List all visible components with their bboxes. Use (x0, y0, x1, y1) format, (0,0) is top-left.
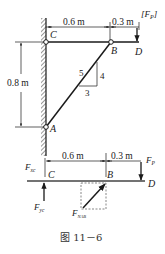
fbd-dim-bd-label: 0.3 m (111, 151, 133, 161)
fbd-fnab-label: FNAB (71, 208, 86, 219)
dim-bd-label: 0.3 m (112, 17, 134, 27)
slope-run: 3 (85, 88, 90, 98)
label-b: B (111, 45, 117, 56)
truss-diagram: C B D A 0.6 m 0.3 m [FP] 0.8 m 5 4 3 (0, 0, 165, 254)
dim-ca-label: 0.8 m (7, 78, 29, 88)
fbd-fxc-label: Fxc (24, 162, 36, 173)
pin-b (109, 40, 114, 45)
pin-c (44, 40, 49, 45)
fbd-label-d: D (147, 178, 156, 189)
structure-view: C B D A 0.6 m 0.3 m [FP] 0.8 m 5 4 3 (7, 9, 158, 156)
figure-caption: 图 11－6 (60, 232, 102, 243)
rod-ab (46, 42, 111, 127)
slope-rise: 4 (100, 71, 105, 81)
fbd-fp-label: FP (145, 155, 156, 166)
label-a: A (49, 123, 57, 134)
label-c: C (50, 29, 57, 40)
fbd-dim-cb-label: 0.6 m (62, 151, 84, 161)
fbd-label-c: C (48, 169, 55, 180)
fbd-fyc-label: Fyc (33, 202, 45, 213)
wall-hatch (41, 18, 46, 156)
slope-hyp: 5 (79, 68, 84, 78)
fbd-fnab-arrow (83, 184, 105, 208)
label-d: D (134, 46, 143, 57)
free-body-diagram: 0.6 m 0.3 m C B D FP Fxc Fyc FNAB (24, 151, 156, 219)
load-label: [FP] (141, 9, 158, 20)
fbd-label-b: B (107, 169, 113, 180)
dim-cb-label: 0.6 m (63, 17, 85, 27)
pin-a (44, 125, 49, 130)
